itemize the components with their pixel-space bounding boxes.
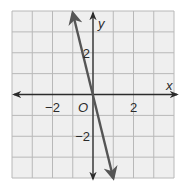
coordinate-plane: −222−2Oxy xyxy=(0,0,179,188)
x-tick-label: −2 xyxy=(45,100,60,115)
x-axis-label: x xyxy=(165,78,173,93)
origin-label: O xyxy=(78,100,88,115)
x-tick-label: 2 xyxy=(130,100,137,115)
y-tick-label: −2 xyxy=(75,129,90,144)
y-tick-label: 2 xyxy=(83,46,90,61)
